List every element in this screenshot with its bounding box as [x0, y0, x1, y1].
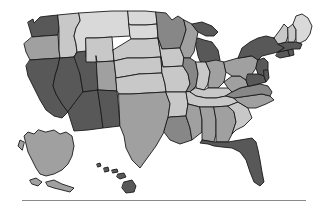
state-ND[interactable] — [128, 11, 157, 25]
state-WY[interactable] — [86, 37, 114, 62]
hawaii-molokai — [112, 169, 118, 173]
us-map-svg — [0, 0, 328, 212]
us-choropleth-map-figure — [0, 0, 328, 212]
hawaii-kauai — [97, 163, 101, 167]
state-OR[interactable] — [24, 35, 60, 60]
state-SD[interactable] — [129, 24, 158, 39]
hawaii-oahu — [104, 167, 109, 172]
state-AL[interactable] — [200, 107, 216, 142]
bottom-horizontal-rule — [22, 200, 306, 201]
